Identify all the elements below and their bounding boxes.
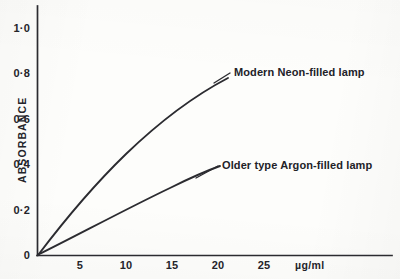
y-tick-label-0.6: 0·6: [4, 113, 30, 125]
series-annotation-neon: Modern Neon-filled lamp: [234, 66, 365, 78]
y-tick-label-0: 0: [4, 249, 30, 261]
x-tick-label-15: 15: [159, 259, 185, 271]
series-annotation-argon: Older type Argon-filled lamp: [222, 159, 372, 171]
series-curve-neon: [39, 78, 229, 255]
x-tick-label-20: 20: [205, 259, 231, 271]
x-tick-label-5: 5: [67, 259, 93, 271]
x-tick-label-25: 25: [251, 259, 277, 271]
chart-figure: ABSORBANCE 1·0 0·8 0·6 0·4 0·2 0 5 10 15…: [0, 0, 400, 279]
x-axis-unit-label: µg/ml: [295, 259, 325, 271]
leader-line-argon: [196, 166, 218, 178]
y-axis-title: ABSORBANCE: [16, 97, 28, 183]
y-tick-label-0.8: 0·8: [4, 67, 30, 79]
x-tick-label-10: 10: [113, 259, 139, 271]
y-tick-label-1.0: 1·0: [4, 22, 30, 34]
series-curve-argon: [39, 166, 221, 255]
plot-area: [0, 0, 400, 279]
y-tick-label-0.2: 0·2: [4, 204, 30, 216]
y-tick-label-0.4: 0·4: [4, 158, 30, 170]
